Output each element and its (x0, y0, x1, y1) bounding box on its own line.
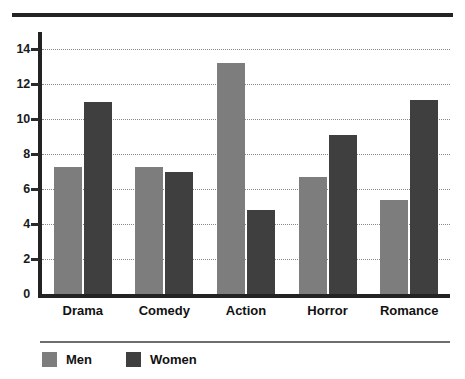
y-axis-tick-label: 4 (0, 217, 30, 231)
bar-group (299, 32, 357, 294)
top-divider-rule (12, 13, 453, 17)
y-axis-tick-label: 10 (0, 112, 30, 126)
legend-divider-rule (40, 341, 450, 343)
category-label-action: Action (205, 303, 287, 318)
y-axis-tick-label: 0 (0, 287, 30, 301)
bar-action-women (247, 210, 275, 294)
category-label-horror: Horror (287, 303, 369, 318)
y-axis-tick (31, 48, 39, 51)
category-label-drama: Drama (42, 303, 124, 318)
chart-page: 02468101214 DramaComedyActionHorrorRoman… (0, 0, 465, 379)
y-axis-tick (31, 83, 39, 86)
legend-swatch-men (42, 352, 57, 367)
legend-item-men[interactable]: Men (42, 352, 92, 367)
category-label-comedy: Comedy (124, 303, 206, 318)
y-axis-tick-label: 14 (0, 42, 30, 56)
bars-layer (42, 32, 450, 294)
bar-comedy-women (165, 172, 193, 294)
y-axis-tick (31, 223, 39, 226)
plot-area: 02468101214 (38, 32, 450, 298)
bar-comedy-men (135, 167, 163, 295)
bar-drama-women (84, 102, 112, 294)
y-axis-tick-label: 8 (0, 147, 30, 161)
y-axis-tick (31, 258, 39, 261)
legend-swatch-women (126, 352, 141, 367)
bar-action-men (217, 63, 245, 294)
bar-group (54, 32, 112, 294)
legend-label-women: Women (150, 352, 197, 367)
category-label-romance: Romance (368, 303, 450, 318)
bar-drama-men (54, 167, 82, 295)
y-axis-tick (31, 153, 39, 156)
chart-legend: MenWomen (42, 352, 197, 367)
bar-group (135, 32, 193, 294)
y-axis-tick (31, 118, 39, 121)
x-axis-line (38, 294, 450, 298)
legend-item-women[interactable]: Women (126, 352, 197, 367)
bar-horror-women (329, 135, 357, 294)
y-axis-tick (31, 188, 39, 191)
bar-romance-women (410, 100, 438, 294)
bar-horror-men (299, 177, 327, 294)
x-axis-category-labels: DramaComedyActionHorrorRomance (38, 303, 450, 325)
bar-group (217, 32, 275, 294)
bar-group (380, 32, 438, 294)
legend-label-men: Men (66, 352, 92, 367)
y-axis-tick-label: 12 (0, 77, 30, 91)
y-axis-tick-label: 6 (0, 182, 30, 196)
bar-romance-men (380, 200, 408, 294)
y-axis-tick-label: 2 (0, 252, 30, 266)
